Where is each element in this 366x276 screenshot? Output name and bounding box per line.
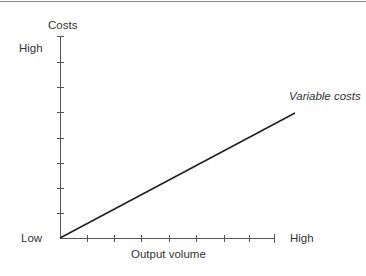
variable-costs-line bbox=[60, 113, 295, 238]
series-label: Variable costs bbox=[289, 91, 361, 103]
y-high-label: High bbox=[19, 43, 43, 55]
x-axis-title: Output volume bbox=[131, 249, 206, 261]
y-axis bbox=[57, 36, 64, 238]
x-axis bbox=[60, 234, 275, 243]
origin-low-label: Low bbox=[21, 233, 42, 245]
y-axis-title: Costs bbox=[48, 20, 77, 32]
x-high-label: High bbox=[290, 233, 314, 245]
